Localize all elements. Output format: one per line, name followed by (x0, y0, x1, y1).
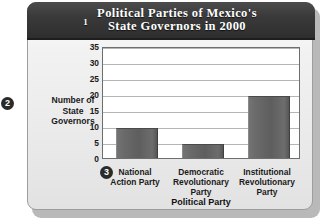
y-tick-25: 25 (90, 74, 99, 84)
y-tick-5: 5 (94, 138, 99, 148)
plot-area (102, 47, 300, 159)
gridline-35 (103, 48, 299, 49)
chart-body: Number of State Governors 05101520253035… (28, 41, 314, 211)
y-tick-35: 35 (90, 42, 99, 52)
gridline-30 (103, 64, 299, 65)
callout-badge-2: 2 (1, 97, 14, 110)
chart-title: Political Parties of Mexico's State Gove… (85, 7, 257, 34)
x-tick-label: Institutional Revolutionary Party (234, 167, 300, 197)
y-tick-20: 20 (90, 90, 99, 100)
x-axis-title: Political Party (102, 197, 300, 207)
bar (182, 144, 224, 158)
callout-badge-1: 1 (79, 16, 92, 29)
y-tick-10: 10 (90, 122, 99, 132)
callout-badge-3: 3 (100, 166, 113, 179)
chart-panel: Political Parties of Mexico's State Gove… (27, 2, 313, 210)
chart-figure: Political Parties of Mexico's State Gove… (27, 2, 315, 215)
bar (116, 128, 158, 158)
x-tick-label: Democratic Revolutionary Party (168, 167, 234, 197)
gridline-25 (103, 80, 299, 81)
y-tick-0: 0 (94, 154, 99, 164)
chart-title-banner: Political Parties of Mexico's State Gove… (27, 2, 315, 40)
y-tick-15: 15 (90, 106, 99, 116)
plot-block: 05101520253035 National Action PartyDemo… (102, 47, 300, 159)
y-tick-30: 30 (90, 58, 99, 68)
bar (248, 96, 290, 158)
